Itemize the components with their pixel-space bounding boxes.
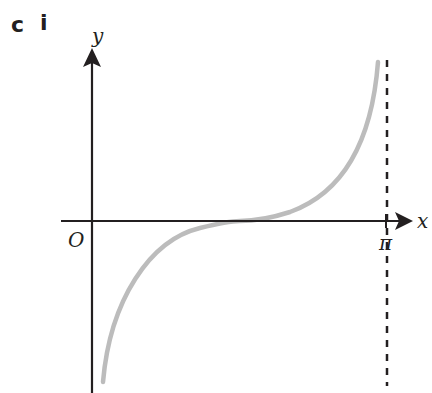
x-axis-label: x: [417, 209, 428, 233]
function-graph: y x O π: [0, 0, 432, 393]
pi-tick-label: π: [378, 231, 393, 255]
y-axis-label: y: [91, 24, 104, 48]
origin-label: O: [68, 228, 84, 252]
